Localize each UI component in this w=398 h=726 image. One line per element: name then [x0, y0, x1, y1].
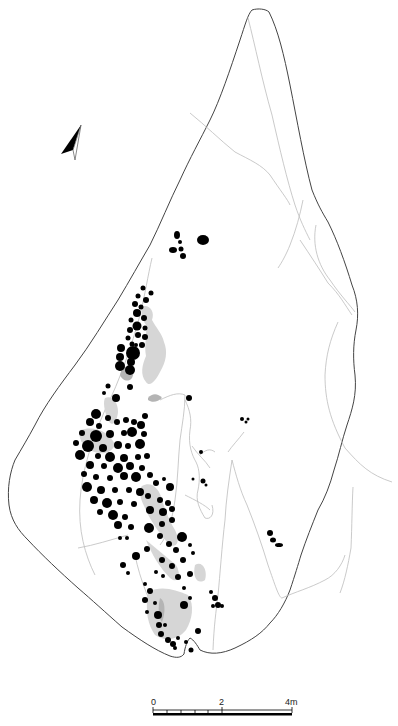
- scale-bar: [153, 707, 292, 716]
- scale-label-0: 0: [151, 698, 156, 707]
- site-plan: [0, 0, 398, 726]
- scale-label-2: 2: [219, 698, 224, 707]
- scale-label-4m: 4m: [285, 698, 298, 707]
- interior-contours: [78, 18, 392, 650]
- grey-shaded-features: [79, 306, 205, 639]
- north-arrow-icon: [61, 125, 81, 160]
